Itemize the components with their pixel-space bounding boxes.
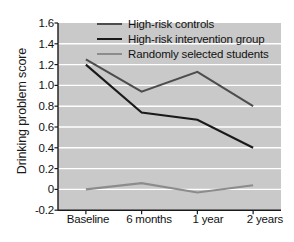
chart-legend: High-risk controls High-risk interventio… [97,17,269,61]
x-tick-label-baseline: Baseline [67,213,110,225]
legend-label: High-risk intervention group [128,33,264,45]
legend-item-high-risk-controls: High-risk controls [97,17,269,31]
chart-figure: Drinking problem score 1.6 1.4 1.2 1.0 0… [0,0,294,242]
legend-item-randomly-selected-students: Randomly selected students [97,47,269,61]
legend-item-high-risk-intervention-group: High-risk intervention group [97,32,269,46]
x-tick-label-1-year: 1 year [193,213,224,225]
legend-swatch-line [97,23,122,25]
legend-label: High-risk controls [128,18,214,30]
x-tick-label-2-years: 2 years [247,213,283,225]
legend-label: Randomly selected students [128,48,269,60]
legend-swatch-line [97,38,122,40]
legend-swatch-line [97,53,122,55]
x-tick-label-6-months: 6 months [126,213,172,225]
